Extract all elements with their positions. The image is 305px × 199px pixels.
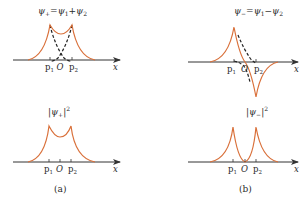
axis-label-x: x bbox=[294, 164, 299, 174]
label-p2: p2 bbox=[254, 64, 263, 75]
panel-a-top: ψ+=ψ1+ψ2 p1 O p2 x bbox=[13, 6, 120, 73]
label-origin: O bbox=[241, 164, 248, 174]
diagram-canvas: ψ+=ψ1+ψ2 p1 O p2 x ψ−=ψ1−ψ2 p1 O p2 x |ψ… bbox=[0, 0, 305, 199]
title-psi-minus: ψ−=ψ1−ψ2 bbox=[234, 6, 283, 17]
label-p1: p1 bbox=[227, 64, 236, 75]
panel-a-bottom: |ψ+|2 p1 O p2 x (a) bbox=[13, 105, 120, 194]
panel-b-top: ψ−=ψ1−ψ2 p1 O p2 x bbox=[188, 6, 299, 97]
axis-label-x: x bbox=[113, 62, 118, 72]
label-p2: p2 bbox=[68, 164, 77, 175]
title-psi-plus-squared: |ψ+|2 bbox=[48, 105, 70, 118]
axis-label-x: x bbox=[294, 64, 299, 74]
psi1-dashed-curve bbox=[238, 35, 256, 63]
panel-b-bottom: |ψ−|2 p1 O p2 x (b) bbox=[188, 105, 299, 194]
psi-minus-squared-curve bbox=[210, 127, 278, 162]
label-p1: p1 bbox=[44, 164, 53, 175]
axis-label-x: x bbox=[113, 164, 118, 174]
label-origin: O bbox=[56, 164, 63, 174]
title-psi-minus-squared: |ψ−|2 bbox=[246, 105, 268, 118]
title-psi-plus: ψ+=ψ1+ψ2 bbox=[38, 6, 87, 17]
label-p2: p2 bbox=[69, 62, 78, 73]
psi-plus-squared-curve bbox=[28, 126, 95, 162]
label-origin: O bbox=[57, 62, 64, 72]
label-p1: p1 bbox=[45, 62, 54, 73]
caption-a: (a) bbox=[54, 184, 66, 194]
label-origin: O bbox=[241, 64, 248, 74]
caption-b: (b) bbox=[239, 184, 252, 194]
label-p1: p1 bbox=[228, 164, 237, 175]
label-p2: p2 bbox=[253, 164, 262, 175]
